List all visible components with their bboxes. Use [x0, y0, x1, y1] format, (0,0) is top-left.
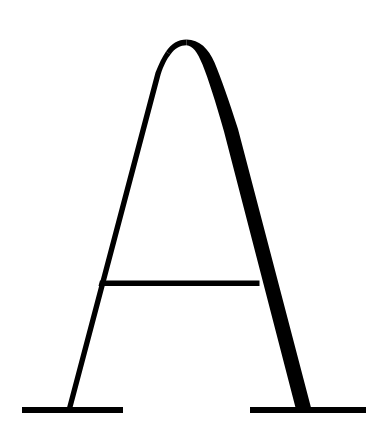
left-foot-serif — [22, 407, 123, 413]
background-rect — [0, 0, 386, 435]
right-foot-serif — [250, 407, 366, 413]
horizontal-crossbar — [99, 281, 260, 287]
letter-a-glyph — [0, 0, 386, 435]
glyph-canvas: Black capital letter A on a white backgr… — [0, 0, 386, 435]
